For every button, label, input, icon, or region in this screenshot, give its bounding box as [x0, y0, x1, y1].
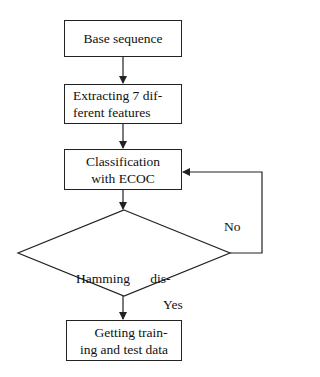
- node-extract-features: Extracting 7 dif- ferent features: [64, 84, 182, 124]
- node-label-line1: Classification: [86, 153, 160, 170]
- node-classification-ecoc: Classification with ECOC: [64, 149, 182, 190]
- node-label: Base sequence: [83, 30, 162, 47]
- node-label-line1: Extracting 7 dif-: [73, 87, 162, 104]
- edge-label-yes: Yes: [163, 296, 183, 313]
- edge-label-no: No: [224, 218, 241, 235]
- node-label-line1: Getting train-: [80, 324, 167, 341]
- node-training-test-data: Getting train- ing and test data: [66, 320, 182, 361]
- node-label-line2: with ECOC: [91, 170, 154, 187]
- decision-label-line1: Hamming dis-: [76, 270, 176, 287]
- node-base-sequence: Base sequence: [64, 20, 182, 57]
- node-label-line2: ing and test data: [80, 341, 168, 358]
- node-label-line2: ferent features: [73, 104, 151, 121]
